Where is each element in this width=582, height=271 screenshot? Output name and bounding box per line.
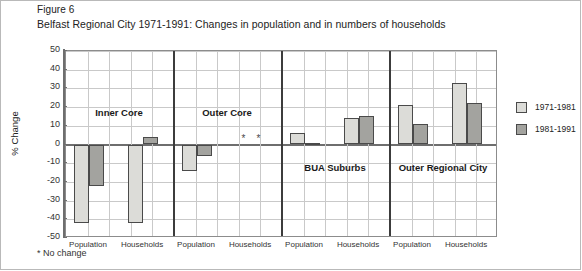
y-tick-mark-10 — [63, 125, 67, 126]
bar-outer-regional-city-population-1981-1991 — [413, 124, 428, 145]
y-tick-mark-30 — [63, 87, 67, 88]
bar-bua-suburbs-households-1971-1981 — [344, 118, 359, 144]
gridline-x-1-4 — [260, 51, 261, 236]
y-axis-title: % Change — [9, 94, 20, 174]
panel-title-bua-suburbs: BUA Suburbs — [281, 162, 389, 173]
bar-inner-core-population-1971-1981 — [74, 145, 89, 224]
panel-title-inner-core: Inner Core — [65, 107, 173, 118]
footnote: * No change — [37, 248, 87, 258]
category-label-households: Households — [220, 240, 280, 249]
bar-bua-suburbs-population-1981-1991 — [305, 143, 320, 145]
bar-inner-core-households-1981-1991 — [143, 137, 158, 144]
legend-item-1981-1991: 1981-1991 — [516, 122, 580, 144]
gridline-x-1-1 — [196, 51, 197, 236]
y-tick-label--40: -40 — [34, 213, 60, 222]
legend-swatch-icon — [516, 124, 527, 135]
panel-separator-2 — [281, 51, 283, 236]
legend-swatch-icon — [516, 102, 527, 113]
chart-legend: 1971-19811981-1991 — [516, 100, 580, 144]
y-tick-mark--10 — [63, 162, 67, 163]
bar-outer-regional-city-households-1971-1981 — [452, 83, 467, 145]
figure-title: Belfast Regional City 1971-1991: Changes… — [37, 18, 446, 30]
category-label-population: Population — [166, 240, 226, 249]
gridline-x-1-2 — [217, 51, 218, 236]
panel-separator-3 — [389, 51, 391, 236]
panel-separator-1 — [173, 51, 175, 236]
legend-label: 1981-1991 — [535, 124, 576, 135]
y-tick-label-0: 0 — [34, 139, 60, 148]
category-label-population: Population — [274, 240, 334, 249]
y-tick-mark-50 — [63, 50, 67, 51]
gridline-x-0-2 — [109, 51, 110, 236]
bar-outer-regional-city-population-1971-1981 — [398, 105, 413, 144]
panel-title-outer-regional-city: Outer Regional City — [389, 162, 497, 173]
y-tick-label--50: -50 — [34, 232, 60, 241]
legend-item-1971-1981: 1971-1981 — [516, 100, 580, 122]
category-label-population: Population — [382, 240, 442, 249]
y-tick-label-10: 10 — [34, 120, 60, 129]
category-label-households: Households — [112, 240, 172, 249]
y-tick-mark--20 — [63, 181, 67, 182]
no-change-marker: * — [236, 134, 251, 144]
y-tick-mark--50 — [63, 237, 67, 238]
y-tick-label--20: -20 — [34, 176, 60, 185]
no-change-marker: * — [251, 134, 266, 144]
y-tick-mark--30 — [63, 200, 67, 201]
legend-label: 1971-1981 — [535, 102, 576, 113]
category-label-households: Households — [328, 240, 388, 249]
gridline-x-3-2 — [433, 51, 434, 236]
y-axis-tick-labels: 50403020100-10-20-30-40-50 — [30, 0, 60, 271]
y-tick-label--30: -30 — [34, 195, 60, 204]
gridline-x-1-3 — [239, 51, 240, 236]
y-tick-label-40: 40 — [34, 64, 60, 73]
y-tick-mark-40 — [63, 69, 67, 70]
bar-inner-core-population-1981-1991 — [89, 145, 104, 186]
y-tick-label-20: 20 — [34, 101, 60, 110]
gridline-x-2-2 — [325, 51, 326, 236]
plot-area: ** — [65, 50, 497, 237]
panel-title-outer-core: Outer Core — [173, 107, 281, 118]
bar-outer-regional-city-households-1981-1991 — [467, 103, 482, 144]
bar-bua-suburbs-population-1971-1981 — [290, 133, 305, 144]
y-tick-mark-0 — [63, 144, 67, 145]
y-tick-mark-20 — [63, 106, 67, 107]
bar-inner-core-households-1971-1981 — [128, 145, 143, 224]
y-tick-mark--40 — [63, 218, 67, 219]
y-tick-label-50: 50 — [34, 45, 60, 54]
y-tick-label-30: 30 — [34, 82, 60, 91]
y-tick-label--10: -10 — [34, 157, 60, 166]
bar-outer-core-population-1971-1981 — [182, 145, 197, 171]
category-label-households: Households — [436, 240, 496, 249]
bar-bua-suburbs-households-1981-1991 — [359, 116, 374, 144]
bar-outer-core-population-1981-1991 — [197, 145, 212, 156]
